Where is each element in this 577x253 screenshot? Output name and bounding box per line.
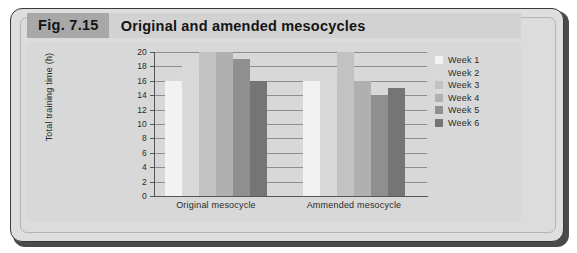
bar xyxy=(337,52,354,196)
chart-panel: Total training time (h) 0246810121416182… xyxy=(27,42,521,222)
bar xyxy=(165,81,182,196)
legend-item: Week 1 xyxy=(435,54,515,67)
bar xyxy=(233,59,250,196)
x-axis-label: Original mesocycle xyxy=(143,200,289,210)
figure-number: Fig. 7.15 xyxy=(27,13,109,38)
legend-item: Week 2 xyxy=(435,67,515,80)
bar xyxy=(354,81,371,196)
legend-label: Week 4 xyxy=(448,93,480,103)
y-axis-tick xyxy=(150,52,154,53)
y-axis-tick xyxy=(150,196,154,197)
y-axis-tick xyxy=(150,153,154,154)
figure-title: Original and amended mesocycles xyxy=(109,18,366,34)
bar xyxy=(250,81,267,196)
legend-swatch xyxy=(435,56,443,64)
y-axis-tick-labels: 02468101214161820 xyxy=(125,42,147,207)
y-axis-tick xyxy=(150,124,154,125)
x-axis-line xyxy=(154,196,428,197)
y-axis-tick xyxy=(150,182,154,183)
y-axis-line xyxy=(154,52,155,197)
figure-root: Fig. 7.15 Original and amended mesocycle… xyxy=(0,0,577,253)
legend-item: Week 3 xyxy=(435,79,515,92)
plot-area xyxy=(155,52,427,196)
legend-item: Week 4 xyxy=(435,92,515,105)
legend-swatch xyxy=(435,69,443,77)
y-tick-label: 10 xyxy=(127,119,147,129)
y-axis-tick xyxy=(150,81,154,82)
legend-item: Week 5 xyxy=(435,104,515,117)
bar xyxy=(182,66,199,196)
bar xyxy=(371,95,388,196)
legend-item: Week 6 xyxy=(435,117,515,130)
legend-swatch xyxy=(435,119,443,127)
y-axis-tick xyxy=(150,138,154,139)
legend-swatch xyxy=(435,106,443,114)
y-tick-label: 2 xyxy=(127,177,147,187)
chart-legend: Week 1Week 2Week 3Week 4Week 5Week 6 xyxy=(435,54,515,129)
bar xyxy=(216,52,233,196)
bar-group xyxy=(165,52,267,196)
y-tick-label: 20 xyxy=(127,47,147,57)
y-tick-label: 8 xyxy=(127,133,147,143)
legend-swatch xyxy=(435,81,443,89)
legend-label: Week 2 xyxy=(448,68,480,78)
legend-label: Week 1 xyxy=(448,55,480,65)
y-axis-tick xyxy=(150,110,154,111)
y-axis-title: Total training time (h) xyxy=(44,32,54,162)
y-tick-label: 14 xyxy=(127,90,147,100)
bar xyxy=(303,81,320,196)
bar-group xyxy=(303,52,405,196)
y-tick-label: 4 xyxy=(127,162,147,172)
legend-label: Week 3 xyxy=(448,80,480,90)
legend-label: Week 5 xyxy=(448,105,480,115)
figure-title-bar: Fig. 7.15 Original and amended mesocycle… xyxy=(27,13,521,38)
y-axis-tick xyxy=(150,95,154,96)
y-tick-label: 18 xyxy=(127,61,147,71)
legend-swatch xyxy=(435,94,443,102)
y-tick-label: 16 xyxy=(127,76,147,86)
y-axis-tick xyxy=(150,167,154,168)
y-tick-label: 6 xyxy=(127,148,147,158)
y-axis-tick xyxy=(150,66,154,67)
bar xyxy=(320,81,337,196)
y-tick-label: 12 xyxy=(127,105,147,115)
legend-label: Week 6 xyxy=(448,118,480,128)
bar xyxy=(388,88,405,196)
bar xyxy=(199,52,216,196)
x-axis-label: Ammended mesocycle xyxy=(281,200,427,210)
